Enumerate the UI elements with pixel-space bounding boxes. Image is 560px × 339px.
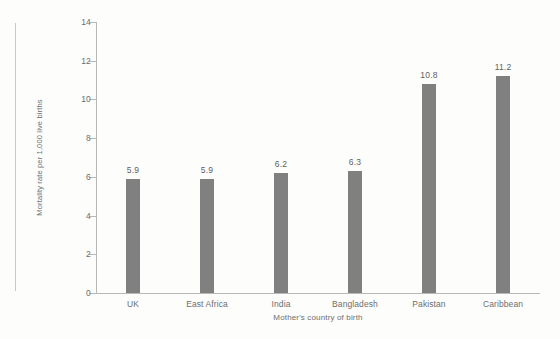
x-axis-category-label: Bangladesh	[332, 299, 378, 309]
y-axis-tick-label: 14	[81, 17, 91, 27]
bar[interactable]	[200, 179, 214, 293]
x-axis-category-label: UK	[127, 299, 139, 309]
y-axis-tick-label: 2	[86, 249, 91, 259]
y-axis-tick-label: 8	[86, 133, 91, 143]
bar[interactable]	[496, 76, 510, 293]
bar[interactable]	[126, 179, 140, 293]
bar-value-label: 5.9	[127, 165, 139, 175]
bar-value-label: 11.2	[495, 62, 512, 72]
x-axis-category-label: East Africa	[186, 299, 228, 309]
x-axis-category-label: Caribbean	[483, 299, 523, 309]
bar-chart-figure: Mortality rate per 1,000 live births 024…	[0, 0, 560, 339]
bar-value-label: 6.2	[275, 159, 287, 169]
bar-group[interactable]: 6.2	[274, 173, 288, 293]
bar[interactable]	[274, 173, 288, 293]
x-axis-title: Mother's country of birth	[96, 313, 540, 322]
bar[interactable]	[348, 171, 362, 293]
bar-value-label: 10.8	[420, 70, 437, 80]
y-axis-tick-label: 4	[86, 211, 91, 221]
y-axis-tick-label: 10	[81, 94, 91, 104]
y-axis-tick-label: 0	[86, 288, 91, 298]
plot-area: 024681012145.95.96.26.310.811.2	[96, 22, 540, 293]
y-axis-tick-label: 12	[81, 56, 91, 66]
bar-group[interactable]: 6.3	[348, 171, 362, 293]
bar-value-label: 6.3	[349, 157, 361, 167]
bar-group[interactable]: 10.8	[422, 84, 436, 293]
bar-group[interactable]: 5.9	[200, 179, 214, 293]
x-axis-category-label: India	[272, 299, 291, 309]
bar-group[interactable]: 11.2	[496, 76, 510, 293]
y-axis-tick-label: 6	[86, 172, 91, 182]
bar-group[interactable]: 5.9	[126, 179, 140, 293]
y-axis-title: Mortality rate per 1,000 live births	[33, 22, 47, 293]
x-axis-category-label: Pakistan	[412, 299, 445, 309]
x-axis-line	[96, 293, 540, 294]
bar[interactable]	[422, 84, 436, 293]
bar-value-label: 5.9	[201, 165, 213, 175]
